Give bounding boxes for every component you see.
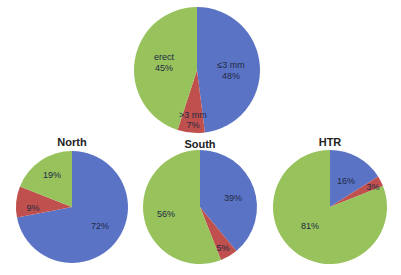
north-large-pct: 9% bbox=[26, 203, 39, 213]
top-small-name: ≤3 mm bbox=[217, 60, 244, 70]
north-small-pct: 72% bbox=[91, 221, 109, 231]
pie-south bbox=[143, 150, 257, 264]
top-erect-name: erect bbox=[154, 52, 175, 62]
south-title: South bbox=[184, 138, 215, 150]
north-title: North bbox=[57, 136, 87, 148]
pie-htr bbox=[273, 150, 387, 264]
top-erect-pct: 45% bbox=[155, 63, 173, 73]
htr-title: HTR bbox=[319, 136, 342, 148]
top-large-name: >3 mm bbox=[179, 110, 207, 120]
south-erect-pct: 56% bbox=[157, 209, 175, 219]
south-large-pct: 5% bbox=[216, 243, 229, 253]
top-small-pct: 48% bbox=[222, 71, 240, 81]
north-erect-pct: 19% bbox=[43, 170, 61, 180]
pie-charts: North South HTR ≤3 mm 48% >3 mm 7% erect… bbox=[0, 0, 401, 275]
top-large-pct: 7% bbox=[186, 120, 199, 130]
htr-large-pct: 3% bbox=[366, 182, 379, 192]
htr-small-pct: 16% bbox=[337, 176, 355, 186]
htr-erect-pct: 81% bbox=[301, 221, 319, 231]
south-small-pct: 39% bbox=[224, 193, 242, 203]
